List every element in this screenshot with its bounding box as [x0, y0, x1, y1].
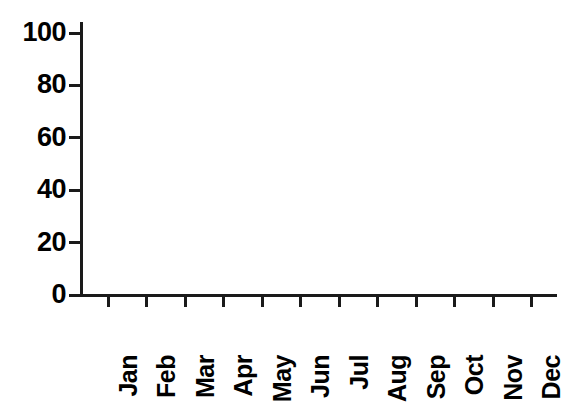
x-axis-tick-label-text: Aug	[385, 355, 410, 402]
x-axis-tick	[376, 295, 379, 307]
x-axis-tick-label-text: Dec	[539, 355, 564, 399]
x-axis-tick-label-text: May	[270, 355, 295, 402]
y-axis-tick-label: 80	[4, 71, 66, 98]
x-axis-tick	[184, 295, 187, 307]
x-axis-tick	[338, 295, 341, 307]
y-axis-tick-label: 0	[4, 281, 66, 308]
x-axis-tick	[492, 295, 495, 307]
y-axis-tick	[69, 241, 81, 244]
y-axis-tick	[69, 189, 81, 192]
plot-area	[83, 22, 557, 294]
y-axis-line	[80, 22, 83, 297]
x-axis-tick-label-text: Mar	[193, 355, 218, 398]
x-axis-tick-label-text: Jun	[308, 355, 333, 398]
x-axis-tick	[107, 295, 110, 307]
x-axis-tick	[222, 295, 225, 307]
y-axis-tick	[69, 32, 81, 35]
y-axis-tick	[69, 136, 81, 139]
x-axis-tick-label-text: Nov	[501, 355, 526, 401]
y-axis-tick-label: 60	[4, 124, 66, 151]
x-axis-tick	[530, 295, 533, 307]
y-axis-tick-label: 40	[4, 176, 66, 203]
x-axis-tick-label-text: Oct	[462, 355, 487, 395]
x-axis-tick-label-text: Jan	[116, 355, 141, 397]
x-axis-tick-label-text: Apr	[231, 355, 256, 397]
x-axis-tick	[453, 295, 456, 307]
x-axis-tick	[415, 295, 418, 307]
x-axis-tick-label-text: Jul	[347, 355, 372, 390]
x-axis-tick	[299, 295, 302, 307]
x-axis-tick-label-text: Sep	[424, 355, 449, 399]
x-axis-tick-label-text: Feb	[154, 355, 179, 398]
y-axis-tick	[69, 84, 81, 87]
y-axis-tick-label: 20	[4, 229, 66, 256]
x-axis-tick	[145, 295, 148, 307]
x-axis-line	[80, 294, 557, 297]
x-axis-tick	[261, 295, 264, 307]
y-axis-tick-label: 100	[4, 19, 66, 46]
y-axis-tick	[69, 294, 81, 297]
